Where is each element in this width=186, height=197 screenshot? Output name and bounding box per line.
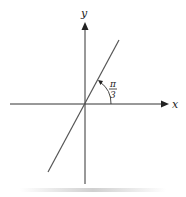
y-axis-label: y (80, 7, 88, 20)
angle-numerator: π (109, 79, 117, 89)
y-axis-arrow-icon (82, 22, 89, 30)
x-axis-label: x (172, 98, 179, 111)
bottom-shadow (20, 188, 166, 192)
x-axis-arrow-icon (161, 101, 169, 108)
coordinate-diagram: x y π 3 (0, 0, 186, 197)
inclined-line (48, 40, 119, 172)
angle-denominator: 3 (110, 90, 116, 100)
